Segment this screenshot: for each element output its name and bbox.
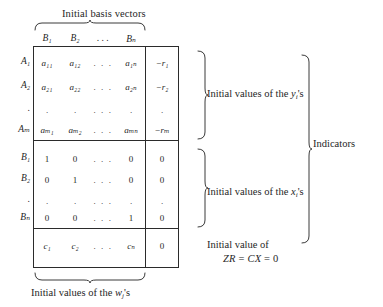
annotation-x-prefix: Initial values of the [207,186,291,197]
annotation-zr-mid: CX [247,253,261,264]
simplex-tableau-figure: Initial basis vectors B₁ B₂ . . . Bₙ A₁ … [0,0,383,307]
cell-a21: a₂₁ [33,82,61,92]
cell-a-dot-ellipsis: . . . [89,105,117,115]
column-header-b2: B₂ [61,33,89,43]
cell-c-ellipsis: . . . [89,241,117,251]
cell-rhs-b-dot: . [145,194,179,207]
cell-a1n: a₁ₙ [117,58,145,68]
table-row: aₘ₁ aₘ₂ . . . aₘₙ [33,123,145,136]
cell-cn: cₙ [117,241,145,251]
bottom-caption-initial-values-w: Initial values of the wj's [31,287,130,298]
annotation-zr-line1: Initial value of [207,239,269,250]
rule-below-b-block [33,228,179,229]
bottom-caption-suffix: 's [124,287,130,298]
cell-b1-ellipsis: . . . [89,154,117,164]
table-row: 0 1 . . . 0 [33,173,145,186]
cell-b1-c1: 1 [33,154,61,164]
annotation-y-subscript: i [296,93,298,101]
column-header-row: B₁ B₂ . . . Bₙ [33,31,145,45]
top-caption-initial-basis-vectors: Initial basis vectors [62,8,146,19]
cell-amn: aₘₙ [117,125,145,135]
annotation-zr-eq1: = [236,253,248,264]
cell-b-dot-ellipsis: . . . [89,196,117,206]
cell-a-dot-n: . [117,105,145,115]
cell-c1: c₁ [33,241,61,251]
top-brace-icon [34,21,146,31]
annotation-y-symbol: y [291,88,296,99]
row-label-a2: A₂ [6,80,30,90]
row-label-b2: B₂ [6,173,30,183]
annotation-initial-values-y: Initial values of the yi's [207,87,304,101]
annotation-initial-values-x: Initial values of the xi's [207,185,304,199]
cell-b2-cn: 0 [117,175,145,185]
cell-a-dot-1: . [33,105,61,115]
annotation-x-subscript: i [296,191,298,199]
cell-rhs-a-dot: . [145,103,179,116]
cell-a12: a₁₂ [61,58,89,68]
table-row: c₁ c₂ . . . cₙ [33,239,145,252]
cell-a2-ellipsis: . . . [89,82,117,92]
bottom-caption-prefix: Initial values of the [31,287,115,298]
cell-b1-cn: 0 [117,154,145,164]
cell-b-dot-2: . [61,196,89,206]
cell-am-ellipsis: . . . [89,125,117,135]
table-row: 0 0 . . . 1 [33,211,145,224]
cell-bn-c1: 0 [33,213,61,223]
cell-am1: aₘ₁ [33,125,61,135]
cell-rhs-r1: −r₁ [145,56,179,69]
column-header-ellipsis: . . . [89,33,117,43]
cell-bn-c2: 0 [61,213,89,223]
column-header-b1: B₁ [33,33,61,43]
row-label-a1: A₁ [6,56,30,66]
brace-indicators-icon [300,54,312,244]
cell-rhs-b1: 0 [145,152,179,165]
table-row: . . . . . . [33,194,145,207]
table-row: 1 0 . . . 0 [33,152,145,165]
cell-rhs-rm: −rₘ [145,123,179,136]
cell-b2-c2: 1 [61,175,89,185]
cell-rhs-r2: −r₂ [145,80,179,93]
cell-rhs-b2: 0 [145,173,179,186]
cell-a22: a₂₂ [61,82,89,92]
bottom-brace-icon [34,272,146,282]
row-label-bn: Bₙ [6,211,30,222]
cell-a2n: a₂ₙ [117,82,145,92]
bottom-caption-symbol: w [115,287,122,298]
cell-am2: aₘ₂ [61,125,89,135]
annotation-indicators: Indicators [313,137,355,151]
cell-bn-ellipsis: . . . [89,213,117,223]
table-row: a₂₁ a₂₂ . . . a₂ₙ [33,80,145,93]
column-header-bn: Bₙ [117,33,145,44]
row-label-b1: B₁ [6,152,30,162]
cell-c2: c₂ [61,241,89,251]
cell-bn-cn: 1 [117,213,145,223]
annotation-initial-value-zr: Initial value of ZR = CX = 0 [207,238,279,266]
cell-b2-ellipsis: . . . [89,175,117,185]
annotation-zr-line2: ZR = CX = 0 [207,252,279,266]
cell-a1-ellipsis: . . . [89,58,117,68]
cell-a-dot-2: . [61,105,89,115]
annotation-zr-eq2: = [261,253,273,264]
annotation-zr-left: ZR [223,253,236,264]
cell-b2-c1: 0 [33,175,61,185]
cell-b-dot-n: . [117,196,145,206]
rule-below-a-block [33,140,179,141]
row-label-b-ellipsis: . [6,194,30,204]
row-label-a-ellipsis: . [6,103,30,113]
table-row: a₁₁ a₁₂ . . . a₁ₙ [33,56,145,69]
cell-rhs-bn: 0 [145,211,179,224]
cell-b-dot-1: . [33,196,61,206]
row-label-am: Aₘ [6,123,30,134]
table-row: . . . . . . [33,103,145,116]
cell-rhs-c: 0 [145,239,179,252]
annotation-zr-right: 0 [273,253,278,264]
cell-b1-c2: 0 [61,154,89,164]
bottom-caption-subscript: j [122,292,124,300]
annotation-x-symbol: x [291,186,296,197]
annotation-y-prefix: Initial values of the [207,88,291,99]
cell-a11: a₁₁ [33,58,61,68]
